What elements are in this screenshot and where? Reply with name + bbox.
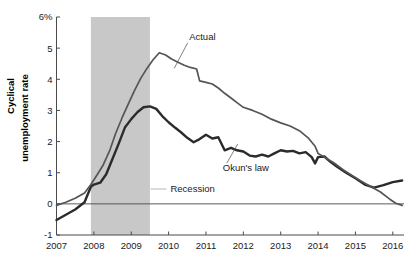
recession-legend-label: Recession [170, 183, 214, 194]
y-axis-title-line2: unemployment rate [19, 74, 30, 162]
chart-annotations: Actual Okun's law Recession [150, 31, 269, 194]
y-axis-tick-labels: -10123456% [39, 11, 53, 240]
y-axis-title-line1: Cyclical [5, 78, 16, 114]
y-axis-title: Cyclical unemployment rate [5, 74, 30, 162]
cyclical-unemployment-line-chart: -10123456% 20072008200920102011201220132… [0, 0, 413, 265]
y-tick-label-2: 2 [47, 136, 52, 147]
y-axis-ticks [57, 17, 61, 235]
y-tick-label--1: -1 [44, 229, 52, 240]
x-axis-tick-labels: 2007200820092010201120122013201420152016 [46, 240, 403, 251]
leader-line-okuns-law [227, 144, 238, 163]
y-tick-label-6: 6% [39, 11, 53, 22]
x-tick-label-2010: 2010 [158, 240, 179, 251]
x-tick-label-2013: 2013 [270, 240, 291, 251]
x-tick-label-2014: 2014 [307, 240, 328, 251]
x-tick-label-2008: 2008 [83, 240, 104, 251]
y-tick-label-4: 4 [47, 74, 52, 85]
series-label-actual: Actual [189, 31, 215, 42]
y-tick-label-5: 5 [47, 43, 52, 54]
y-tick-label-0: 0 [47, 198, 52, 209]
series-label-okuns-law: Okun's law [223, 162, 269, 173]
y-tick-label-1: 1 [47, 167, 52, 178]
x-tick-label-2009: 2009 [121, 240, 142, 251]
x-tick-label-2015: 2015 [345, 240, 366, 251]
x-tick-label-2011: 2011 [196, 240, 216, 251]
x-tick-label-2016: 2016 [382, 240, 403, 251]
y-tick-label-3: 3 [47, 105, 52, 116]
recession-shaded-band [91, 17, 150, 235]
x-tick-label-2007: 2007 [46, 240, 67, 251]
chart-figure: -10123456% 20072008200920102011201220132… [0, 0, 413, 265]
x-tick-label-2012: 2012 [233, 240, 254, 251]
